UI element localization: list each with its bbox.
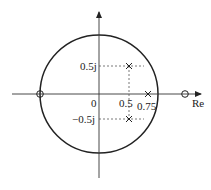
axis-label-re: Re bbox=[192, 97, 204, 109]
pole-zero-plot: 0.5j −0.5j 0 0.5 0.75 Re bbox=[0, 0, 211, 190]
label-imag-pos: 0.5j bbox=[80, 60, 97, 72]
label-origin: 0 bbox=[91, 97, 97, 109]
label-real-0-75: 0.75 bbox=[137, 100, 157, 112]
pole-markers bbox=[126, 63, 151, 122]
label-imag-neg: −0.5j bbox=[72, 113, 95, 125]
label-real-0-5: 0.5 bbox=[119, 97, 133, 109]
